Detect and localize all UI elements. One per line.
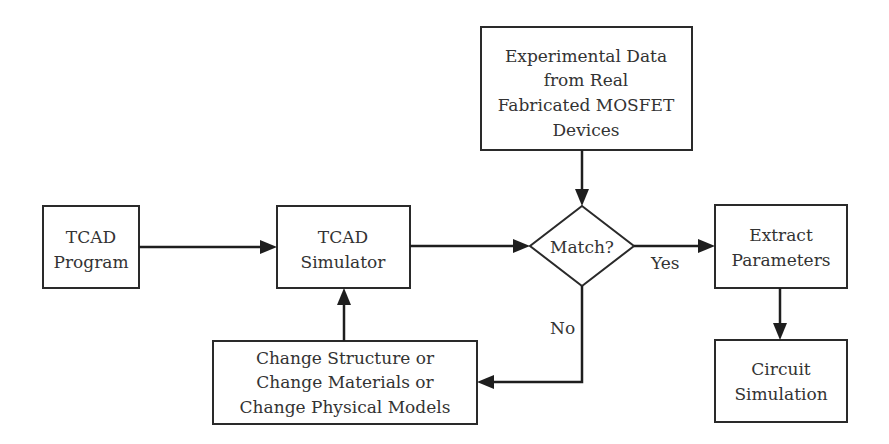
change-box-line-1: Change Structure or bbox=[256, 348, 435, 368]
edge-match-to-extract-yes: Yes bbox=[634, 239, 715, 273]
tcad-simulator-line-1: TCAD bbox=[318, 227, 368, 247]
tcad-program-line-1: TCAD bbox=[66, 227, 116, 247]
arrowhead-icon bbox=[513, 239, 530, 253]
extract-parameters-line-2: Parameters bbox=[732, 250, 831, 270]
arrowhead-icon bbox=[337, 288, 351, 305]
edge-change-to-simulator bbox=[337, 288, 351, 341]
extract-parameters-line-1: Extract bbox=[749, 225, 813, 245]
node-circuit-simulation: Circuit Simulation bbox=[715, 340, 847, 422]
change-box-line-3: Change Physical Models bbox=[240, 397, 451, 417]
edge-match-to-change-no: No bbox=[477, 286, 582, 389]
arrowhead-icon bbox=[477, 375, 494, 389]
experimental-data-line-2: from Real bbox=[544, 70, 629, 90]
arrowhead-icon bbox=[575, 189, 589, 206]
edge-simulator-to-match bbox=[410, 239, 530, 253]
circuit-simulation-line-1: Circuit bbox=[751, 359, 810, 379]
node-match-decision: Match? bbox=[530, 206, 634, 286]
arrowhead-icon bbox=[773, 323, 787, 340]
node-tcad-program: TCAD Program bbox=[43, 206, 139, 288]
arrowhead-icon bbox=[260, 240, 277, 254]
arrowhead-icon bbox=[698, 239, 715, 253]
circuit-simulation-line-2: Simulation bbox=[734, 384, 827, 404]
tcad-program-line-2: Program bbox=[53, 252, 128, 272]
node-extract-parameters: Extract Parameters bbox=[715, 205, 847, 288]
experimental-data-line-4: Devices bbox=[552, 120, 619, 140]
no-label: No bbox=[550, 318, 575, 338]
yes-label: Yes bbox=[650, 253, 680, 273]
experimental-data-line-1: Experimental Data bbox=[505, 46, 667, 66]
edge-program-to-simulator bbox=[139, 240, 277, 254]
node-change-structure-materials-models: Change Structure or Change Materials or … bbox=[213, 341, 477, 424]
edge-experimental-to-match bbox=[575, 150, 589, 206]
node-experimental-data: Experimental Data from Real Fabricated M… bbox=[481, 27, 692, 150]
node-tcad-simulator: TCAD Simulator bbox=[277, 206, 410, 288]
experimental-data-line-3: Fabricated MOSFET bbox=[498, 95, 675, 115]
edge-extract-to-circuit bbox=[773, 288, 787, 340]
match-label: Match? bbox=[550, 237, 614, 257]
flowchart-diagram: Experimental Data from Real Fabricated M… bbox=[0, 0, 889, 444]
tcad-simulator-line-2: Simulator bbox=[301, 252, 387, 272]
change-box-line-2: Change Materials or bbox=[256, 372, 434, 392]
